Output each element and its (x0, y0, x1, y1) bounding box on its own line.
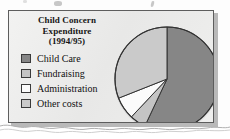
chart-title: Child Concern Expenditure (1994/95) (15, 15, 119, 47)
legend-swatch-fundraising (21, 69, 31, 78)
legend-label-administration: Administration (37, 83, 98, 94)
chart-title-line-2: Expenditure (15, 26, 119, 37)
page-text-remnant (54, 1, 62, 6)
pie-chart (105, 10, 214, 123)
legend-swatch-other-costs (21, 99, 31, 108)
pie-slice-group (114, 27, 214, 123)
page-text-remnant (23, 0, 27, 3)
legend-list: Child Care Fundraising Administration Ot… (15, 51, 119, 111)
chart-figure-frame: Child Concern Expenditure (1994/95) Chil… (8, 10, 214, 123)
legend-swatch-child-care (21, 54, 31, 63)
scanned-page: Child Concern Expenditure (1994/95) Chil… (0, 0, 230, 139)
pie-chart-svg (105, 10, 214, 123)
legend-label-child-care: Child Care (37, 53, 81, 64)
legend-swatch-administration (21, 84, 31, 93)
page-text-remnant (150, 1, 154, 7)
chart-title-line-1: Child Concern (15, 15, 119, 26)
chart-title-line-3: (1994/95) (15, 36, 119, 47)
legend-label-fundraising: Fundraising (37, 68, 85, 79)
legend-block: Child Concern Expenditure (1994/95) Chil… (15, 15, 119, 111)
legend-label-other-costs: Other costs (37, 98, 82, 109)
